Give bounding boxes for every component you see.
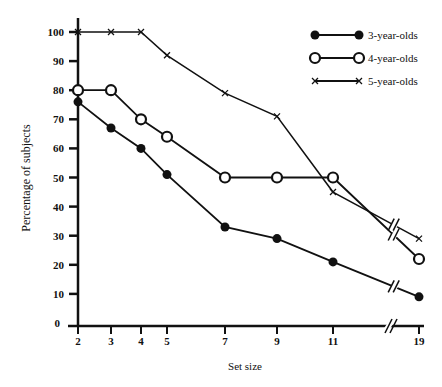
- y-axis-label: Percentage of subjects: [19, 124, 33, 232]
- data-point: [311, 31, 320, 40]
- x-tick-label: 4: [138, 335, 144, 347]
- y-tick-label: 70: [53, 113, 65, 125]
- data-point: [273, 234, 282, 243]
- y-tick-label: 100: [48, 26, 65, 38]
- x-tick-label: 19: [414, 335, 426, 347]
- data-point: [310, 53, 320, 63]
- data-point: [164, 52, 170, 58]
- data-point: [330, 189, 336, 195]
- chart: 01020304050607080901002345791119Set size…: [0, 0, 442, 387]
- series-line: [78, 102, 419, 297]
- data-point: [274, 113, 280, 119]
- data-point: [136, 114, 146, 124]
- data-point: [329, 257, 338, 266]
- x-tick-label: 7: [222, 335, 228, 347]
- x-tick-label: 9: [274, 335, 280, 347]
- y-tick-label: 80: [53, 84, 65, 96]
- y-tick-label: 10: [53, 288, 65, 300]
- legend-label: 5-year-olds: [368, 75, 418, 87]
- legend-label: 4-year-olds: [368, 52, 418, 64]
- y-tick-label: 40: [53, 201, 65, 213]
- data-point: [73, 85, 83, 95]
- data-point: [416, 236, 422, 242]
- legend-label: 3-year-olds: [368, 29, 418, 41]
- data-point: [272, 173, 282, 183]
- x-tick-label: 3: [108, 335, 114, 347]
- y-tick-label: 0: [55, 317, 61, 329]
- data-point: [220, 173, 230, 183]
- data-point: [328, 173, 338, 183]
- data-point: [107, 124, 116, 133]
- series-line: [78, 90, 419, 259]
- data-point: [354, 53, 364, 63]
- y-tick-label: 50: [53, 172, 65, 184]
- y-tick-label: 90: [53, 55, 65, 67]
- data-point: [137, 144, 146, 153]
- data-point: [162, 132, 172, 142]
- y-tick-label: 20: [53, 259, 65, 271]
- data-point: [163, 170, 172, 179]
- x-tick-label: 11: [328, 335, 338, 347]
- data-point: [222, 90, 228, 96]
- data-point: [106, 85, 116, 95]
- line-chart: 01020304050607080901002345791119Set size…: [0, 0, 442, 387]
- y-tick-label: 30: [53, 230, 65, 242]
- x-axis-label: Set size: [228, 360, 262, 372]
- data-point: [221, 222, 230, 231]
- data-point: [355, 31, 364, 40]
- data-point: [414, 254, 424, 264]
- data-point: [415, 292, 424, 301]
- data-point: [74, 97, 83, 106]
- x-tick-label: 5: [164, 335, 170, 347]
- y-tick-label: 60: [53, 142, 65, 154]
- x-tick-label: 2: [75, 335, 81, 347]
